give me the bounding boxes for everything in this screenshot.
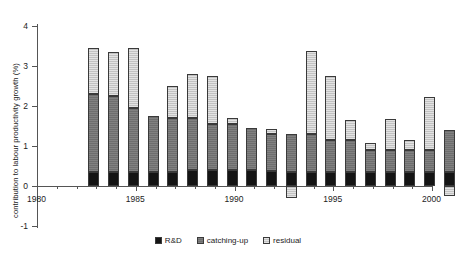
bar-1999[interactable]	[444, 26, 455, 257]
legend-item-residual[interactable]: residual	[263, 236, 301, 245]
segment-rd-1994	[345, 172, 356, 186]
segment-residual-1995	[365, 143, 376, 150]
y-tick-label: 3	[2, 62, 28, 70]
segment-rd-1999	[444, 172, 455, 186]
segment-catching-up-1990	[266, 134, 277, 171]
segment-catching-up-1984	[148, 116, 159, 172]
segment-rd-1985	[167, 172, 178, 186]
segment-catching-up-1991	[286, 134, 297, 172]
chart-legend: R&Dcatching-upresidual	[0, 236, 456, 245]
segment-catching-up-1999	[444, 130, 455, 172]
bar-1988[interactable]	[227, 26, 238, 257]
segment-catching-up-1996	[385, 150, 396, 172]
black-square-swatch	[155, 237, 162, 244]
segment-residual-1986	[187, 74, 198, 118]
y-tick	[32, 226, 37, 227]
segment-residual-1982	[108, 52, 119, 96]
bar-1991[interactable]	[286, 26, 297, 257]
segment-catching-up-1985	[167, 118, 178, 172]
plot-area	[37, 26, 432, 226]
y-tick-label: 0	[2, 182, 28, 190]
bar-1994[interactable]	[345, 26, 356, 257]
segment-residual-1988	[227, 118, 238, 124]
segment-catching-up-1986	[187, 118, 198, 170]
legend-item-catching-up[interactable]: catching-up	[197, 236, 248, 245]
segment-residual-1990	[266, 129, 277, 134]
segment-residual-1996	[385, 119, 396, 150]
chart-figure: contribution to labour productivity grow…	[0, 0, 456, 257]
segment-rd-1997	[404, 172, 415, 186]
y-axis-title: contribution to labour productivity grow…	[11, 63, 20, 218]
bar-1983[interactable]	[128, 26, 139, 257]
segment-catching-up-1998	[424, 150, 435, 172]
bar-1986[interactable]	[187, 26, 198, 257]
bar-1984[interactable]	[148, 26, 159, 257]
y-tick-label: 4	[2, 22, 28, 30]
y-tick-label: -1	[2, 222, 28, 230]
segment-residual-1983	[128, 48, 139, 108]
segment-catching-up-1981	[88, 94, 99, 172]
bar-1985[interactable]	[167, 26, 178, 257]
segment-residual-1993	[325, 76, 336, 140]
bar-1995[interactable]	[365, 26, 376, 257]
segment-residual-1987	[207, 76, 218, 124]
segment-residual-1991	[286, 186, 297, 198]
segment-rd-1989	[246, 170, 257, 186]
segment-rd-1986	[187, 170, 198, 186]
segment-residual-1994	[345, 120, 356, 140]
segment-catching-up-1989	[246, 128, 257, 170]
segment-catching-up-1987	[207, 124, 218, 170]
segment-residual-1997	[404, 140, 415, 150]
segment-rd-1982	[108, 172, 119, 186]
segment-catching-up-1995	[365, 150, 376, 172]
legend-label: catching-up	[207, 236, 248, 245]
bar-1990[interactable]	[266, 26, 277, 257]
segment-catching-up-1993	[325, 140, 336, 172]
segment-catching-up-1982	[108, 96, 119, 172]
segment-residual-1985	[167, 86, 178, 118]
segment-catching-up-1983	[128, 108, 139, 172]
segment-rd-1984	[148, 172, 159, 186]
segment-rd-1991	[286, 172, 297, 186]
bar-1982[interactable]	[108, 26, 119, 257]
segment-rd-1998	[424, 172, 435, 186]
segment-rd-1992	[306, 172, 317, 186]
segment-rd-1987	[207, 170, 218, 186]
bar-1992[interactable]	[306, 26, 317, 257]
segment-rd-1993	[325, 172, 336, 186]
y-tick-label: 2	[2, 102, 28, 110]
segment-rd-1981	[88, 172, 99, 186]
segment-catching-up-1994	[345, 140, 356, 172]
segment-rd-1996	[385, 172, 396, 186]
segment-rd-1983	[128, 172, 139, 186]
bar-1997[interactable]	[404, 26, 415, 257]
segment-catching-up-1997	[404, 150, 415, 172]
segment-rd-1988	[227, 170, 238, 186]
segment-catching-up-1988	[227, 124, 238, 170]
light-gray-square-swatch	[263, 237, 270, 244]
bar-1996[interactable]	[385, 26, 396, 257]
legend-label: R&D	[165, 236, 182, 245]
segment-residual-1999	[444, 186, 455, 196]
bar-1993[interactable]	[325, 26, 336, 257]
bar-1987[interactable]	[207, 26, 218, 257]
segment-residual-1992	[306, 51, 317, 134]
y-tick-label: 1	[2, 142, 28, 150]
legend-item-r-d[interactable]: R&D	[155, 236, 182, 245]
segment-rd-1990	[266, 171, 277, 186]
segment-rd-1995	[365, 172, 376, 186]
segment-catching-up-1992	[306, 134, 317, 172]
legend-label: residual	[273, 236, 301, 245]
bar-1989[interactable]	[246, 26, 257, 257]
bar-1981[interactable]	[88, 26, 99, 257]
segment-residual-1981	[88, 48, 99, 94]
segment-residual-1998	[424, 97, 435, 150]
dark-gray-square-swatch	[197, 237, 204, 244]
bar-1998[interactable]	[424, 26, 435, 257]
